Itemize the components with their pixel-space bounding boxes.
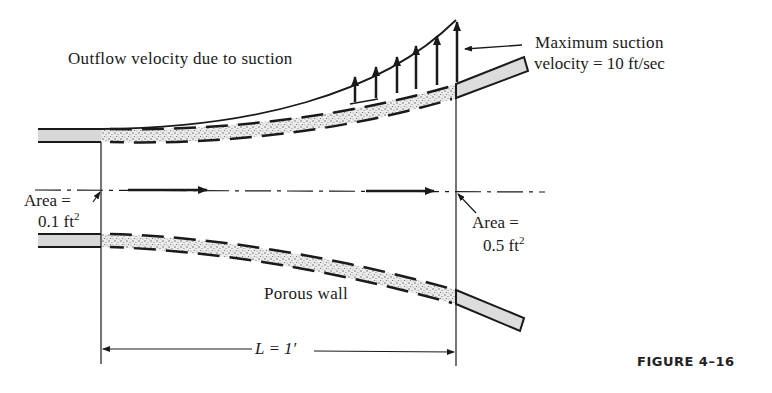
max-suction-label-line1: Maximum suction (535, 34, 664, 51)
max-suction-leader-arrow (465, 45, 522, 49)
inlet-pipe-top-wall (38, 129, 101, 142)
outflow-velocity-label: Outflow velocity due to suction (68, 50, 293, 67)
outlet-area-value: 0.5 ft2 (483, 235, 524, 254)
centerline (35, 190, 545, 192)
bottom-outlet-pipe (456, 290, 524, 331)
inlet-area-value: 0.1 ft2 (38, 211, 79, 230)
inlet-pipe-bottom-wall (38, 234, 101, 247)
length-label: L = 1′ (255, 340, 296, 357)
figure-caption: FIGURE 4–16 (637, 354, 735, 369)
top-outlet-pipe (456, 57, 528, 98)
outlet-area-label: Area = (472, 214, 519, 231)
inlet-area-number: 0.1 ft (38, 212, 74, 231)
inlet-area-leader (93, 192, 100, 202)
top-porous-wall (101, 84, 456, 142)
outlet-area-number: 0.5 ft (483, 236, 519, 255)
inlet-area-exponent: 2 (74, 210, 80, 222)
porous-wall-label: Porous wall (264, 285, 348, 302)
outlet-area-leader (458, 194, 476, 213)
inlet-area-label: Area = (24, 192, 71, 209)
max-suction-label-line2: velocity = 10 ft/sec (534, 55, 665, 72)
outlet-area-exponent: 2 (519, 234, 525, 246)
